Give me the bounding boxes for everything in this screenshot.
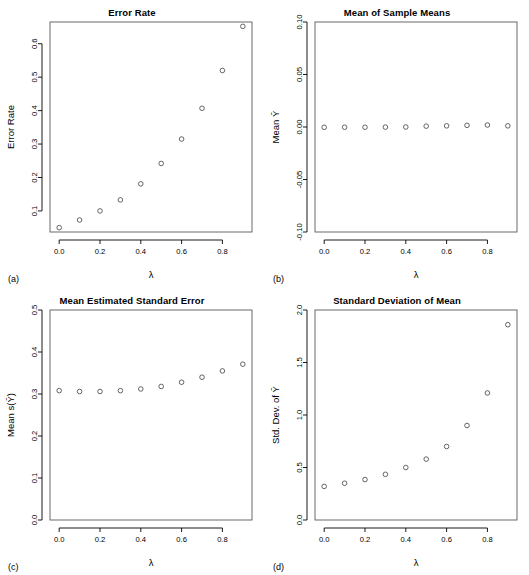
y-axis-label: Mean Ȳ (270, 110, 281, 143)
data-point (363, 477, 368, 482)
y-tick-label: -0.05 (295, 171, 304, 188)
y-tick-label: 1.5 (295, 357, 304, 368)
data-point (404, 125, 409, 130)
y-tick-label: 0.00 (295, 120, 304, 135)
x-tick-label: 0.6 (176, 535, 187, 544)
data-point (179, 380, 184, 385)
x-tick-label: 0.8 (217, 247, 228, 256)
data-point (98, 389, 103, 394)
y-tick-label: 0.3 (30, 139, 39, 150)
data-point (444, 444, 449, 449)
x-tick-label: 0.4 (401, 247, 412, 256)
data-point (159, 384, 164, 389)
y-tick-label: 0.10 (295, 15, 304, 30)
x-tick-label: 0.8 (217, 535, 228, 544)
data-point (485, 123, 490, 128)
plot-frame (50, 22, 252, 232)
panel-c-tag: (c) (8, 562, 19, 572)
y-tick-label: 0.5 (295, 462, 304, 473)
panel-c-plot: 0.00.20.40.60.8λ0.00.10.20.30.40.5Mean s… (0, 288, 264, 575)
y-tick-label: -0.10 (295, 223, 304, 240)
x-tick-label: 0.6 (441, 247, 452, 256)
data-point (444, 124, 449, 129)
data-point (57, 388, 62, 393)
data-point (220, 68, 225, 73)
data-point (77, 389, 82, 394)
y-tick-label: 0.05 (295, 67, 304, 82)
data-point (57, 225, 62, 230)
data-point (342, 125, 347, 130)
x-tick-label: 0.6 (441, 535, 452, 544)
y-tick-label: 0.4 (30, 347, 39, 358)
data-point (424, 124, 429, 129)
y-tick-label: 0.0 (295, 515, 304, 526)
data-point (200, 106, 205, 111)
data-point (404, 465, 409, 470)
panel-c: Mean Estimated Standard Error 0.00.20.40… (0, 288, 264, 575)
data-point (465, 423, 470, 428)
panel-a-tag: (a) (8, 274, 19, 284)
y-tick-label: 0.1 (30, 206, 39, 217)
x-axis-label: λ (414, 269, 419, 280)
y-tick-label: 0.3 (30, 389, 39, 400)
data-point (139, 182, 144, 187)
data-point (322, 484, 327, 489)
panel-d: Standard Deviation of Mean 0.00.20.40.60… (265, 288, 529, 575)
x-tick-label: 0.0 (319, 535, 330, 544)
panel-a: Error Rate 0.00.20.40.60.8λ0.10.20.30.40… (0, 0, 264, 287)
data-point (77, 218, 82, 223)
data-point (424, 457, 429, 462)
x-axis-label: λ (414, 557, 419, 568)
y-axis-label: Mean s(Ȳ) (5, 393, 16, 437)
data-point (506, 124, 511, 129)
x-tick-label: 0.4 (136, 247, 147, 256)
x-axis-label: λ (149, 269, 154, 280)
y-tick-label: 0.2 (30, 431, 39, 442)
x-tick-label: 0.0 (54, 535, 65, 544)
data-point (159, 161, 164, 166)
y-tick-label: 0.5 (30, 305, 39, 316)
plot-frame (50, 310, 252, 520)
panel-b-tag: (b) (273, 274, 284, 284)
data-point (241, 24, 246, 29)
x-tick-label: 0.2 (360, 535, 371, 544)
data-point (200, 375, 205, 380)
x-tick-label: 0.8 (482, 535, 493, 544)
x-tick-label: 0.4 (136, 535, 147, 544)
panel-d-plot: 0.00.20.40.60.8λ0.00.51.01.52.0Std. Dev.… (265, 288, 529, 575)
data-point (118, 198, 123, 203)
x-tick-label: 0.0 (54, 247, 65, 256)
panel-a-plot: 0.00.20.40.60.8λ0.10.20.30.40.50.6Error … (0, 0, 264, 287)
y-tick-label: 0.4 (30, 105, 39, 116)
data-point (465, 123, 470, 128)
data-point (506, 322, 511, 327)
data-point (118, 388, 123, 393)
x-tick-label: 0.6 (176, 247, 187, 256)
data-point (322, 125, 327, 130)
x-tick-label: 0.4 (401, 535, 412, 544)
y-tick-label: 2.0 (295, 305, 304, 316)
y-axis-label: Std. Dev. of Ȳ (270, 385, 281, 444)
panel-b: Mean of Sample Means 0.00.20.40.60.8λ-0.… (265, 0, 529, 287)
data-point (485, 391, 490, 396)
data-point (241, 362, 246, 367)
x-axis-label: λ (149, 557, 154, 568)
y-tick-label: 0.1 (30, 473, 39, 484)
panel-b-plot: 0.00.20.40.60.8λ-0.10-0.050.000.050.10Me… (265, 0, 529, 287)
y-tick-label: 1.0 (295, 410, 304, 421)
panel-d-tag: (d) (273, 562, 284, 572)
data-point (139, 387, 144, 392)
y-axis-label: Error Rate (5, 105, 16, 149)
y-tick-label: 0.2 (30, 172, 39, 183)
plot-frame (315, 310, 517, 520)
data-point (363, 125, 368, 130)
figure-canvas: Error Rate 0.00.20.40.60.8λ0.10.20.30.40… (0, 0, 529, 575)
data-point (383, 125, 388, 130)
data-point (220, 369, 225, 374)
y-tick-label: 0.5 (30, 72, 39, 83)
x-tick-label: 0.2 (95, 247, 106, 256)
data-point (342, 481, 347, 486)
data-point (98, 209, 103, 214)
y-tick-label: 0.0 (30, 515, 39, 526)
x-tick-label: 0.8 (482, 247, 493, 256)
